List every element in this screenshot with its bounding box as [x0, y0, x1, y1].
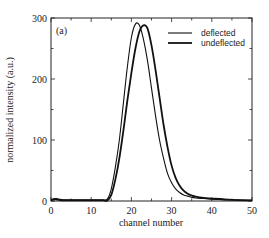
y-tick-label: 200 — [32, 74, 47, 85]
x-tick-label: 0 — [49, 205, 54, 216]
data-series — [51, 23, 252, 201]
y-axis-title: normalized intensity (a.u.) — [4, 57, 16, 163]
x-tick-label: 10 — [86, 205, 96, 216]
legend: deflectedundeflected — [168, 28, 245, 48]
y-tick-label: 0 — [42, 196, 47, 207]
y-tick-label: 300 — [32, 13, 47, 24]
x-tick-label: 50 — [247, 205, 257, 216]
series-line-undeflected — [51, 25, 252, 201]
legend-label-deflected: deflected — [201, 28, 236, 38]
panel-label: (a) — [56, 25, 67, 37]
legend-label-undeflected: undeflected — [201, 38, 245, 48]
y-tick-label: 100 — [32, 135, 47, 146]
x-tick-label: 20 — [126, 205, 136, 216]
x-tick-label: 30 — [167, 205, 177, 216]
line-chart: 010203040500100200300 deflectedundeflect… — [0, 0, 269, 238]
x-tick-label: 40 — [207, 205, 217, 216]
x-axis-title: channel number — [119, 217, 184, 228]
